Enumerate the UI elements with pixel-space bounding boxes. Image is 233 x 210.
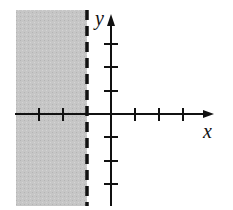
y-axis xyxy=(104,14,118,206)
x-axis-label: x xyxy=(202,120,212,142)
y-axis-label: y xyxy=(93,7,104,30)
inequality-graph: y x xyxy=(0,0,233,210)
y-axis-arrow-icon xyxy=(107,14,115,26)
x-axis-arrow-icon xyxy=(203,110,214,118)
shaded-region xyxy=(16,10,87,206)
